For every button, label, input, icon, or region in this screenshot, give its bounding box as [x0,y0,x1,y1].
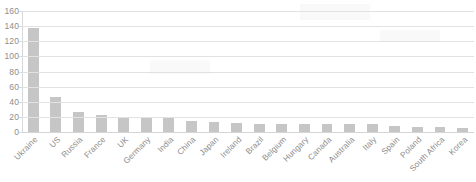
y-axis-tick-mark [19,26,22,27]
gridline [22,117,474,118]
gridline [22,26,474,27]
x-axis-label-slot: France [90,133,113,182]
x-axis-label-slot: Ukraine [22,133,45,182]
y-axis-tick-mark [19,117,22,118]
y-axis-tick-label: 140 [5,22,19,31]
x-axis-label-slot: Australia [338,133,361,182]
y-axis-tick-mark [19,56,22,57]
x-axis-label-slot: Ireland [225,133,248,182]
x-axis-label-slot: China [180,133,203,182]
x-axis-label-slot: South Africa [429,133,452,182]
x-axis-tick-label: Italy [361,135,378,152]
y-axis-tick-mark [19,102,22,103]
bar [141,118,152,132]
x-axis-tick-label: India [156,135,175,154]
bar [118,118,129,132]
y-axis-tick-label: 40 [9,98,19,107]
y-axis-tick-mark [19,11,22,12]
bar-chart: 160140120100806040200 UkraineUSRussiaFra… [0,0,476,182]
bar [186,121,197,132]
y-axis-tick-label: 20 [9,113,19,122]
bar [322,124,333,132]
x-axis-label-slot: Korea [451,133,474,182]
bar [73,112,84,132]
gridline [22,87,474,88]
bar [367,124,378,132]
gridline [22,11,474,12]
x-axis-label-slot: Japan [203,133,226,182]
bar [276,124,287,132]
gridline [22,72,474,73]
gridline [22,41,474,42]
x-axis-tick-label: China [176,135,198,157]
y-axis-tick-mark [19,72,22,73]
bar [299,124,310,132]
bar [344,124,355,132]
plot-area [22,11,474,132]
bar [163,118,174,132]
y-axis-tick-label: 160 [5,7,19,16]
x-axis-label-slot: Italy [361,133,384,182]
y-axis-tick-label: 60 [9,82,19,91]
y-axis-tick-label: 80 [9,67,19,76]
gridline [22,102,474,103]
y-axis-tick-label: 120 [5,37,19,46]
x-axis-category-labels: UkraineUSRussiaFranceUKGermanyIndiaChina… [22,133,474,182]
bar [231,123,242,132]
x-axis-label-slot: Germany [135,133,158,182]
bar [209,122,220,132]
x-axis-label-slot: India [158,133,181,182]
y-axis-tick-mark [19,41,22,42]
x-axis-tick-label: US [48,135,63,150]
gridline [22,56,474,57]
y-axis-tick-mark [19,87,22,88]
x-axis-tick-label: UK [116,135,131,150]
y-axis: 160140120100806040200 [0,0,22,140]
bar [254,124,265,132]
y-axis-tick-label: 100 [5,52,19,61]
